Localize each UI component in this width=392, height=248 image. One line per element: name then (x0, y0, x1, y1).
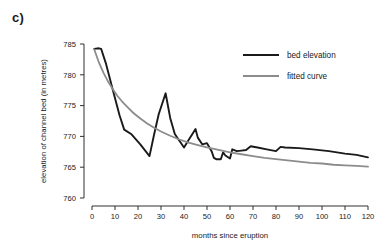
x-tick-label: 50 (203, 212, 211, 221)
x-tick-label: 100 (316, 212, 329, 221)
y-tick-label: 770 (63, 132, 76, 141)
line-chart: 7607657707757807850102030405060708090100… (0, 0, 392, 248)
x-tick-label: 60 (226, 212, 234, 221)
legend-group: bed elevationfitted curve (243, 51, 336, 81)
x-tick-label: 20 (134, 212, 142, 221)
series-line-2 (94, 50, 368, 167)
x-tick-label: 40 (180, 212, 188, 221)
y-tick-label: 765 (63, 163, 76, 172)
legend-label-2: fitted curve (287, 72, 327, 81)
legend-label-1: bed elevation (287, 51, 336, 60)
series-group (94, 48, 368, 166)
y-tick-label: 775 (63, 101, 76, 110)
figure-panel: c) 7607657707757807850102030405060708090… (0, 0, 392, 248)
axes-group: 7607657707757807850102030405060708090100… (63, 40, 374, 221)
x-tick-label: 30 (157, 212, 165, 221)
x-tick-label: 0 (90, 212, 94, 221)
x-tick-label: 70 (249, 212, 257, 221)
x-tick-label: 10 (111, 212, 119, 221)
x-axis-title: months since eruption (192, 231, 268, 240)
y-tick-label: 780 (63, 71, 76, 80)
series-line-1 (94, 48, 368, 159)
y-tick-label: 785 (63, 40, 76, 49)
x-tick-label: 90 (295, 212, 303, 221)
x-tick-label: 80 (272, 212, 280, 221)
x-tick-label: 110 (339, 212, 351, 221)
y-tick-label: 760 (63, 194, 76, 203)
y-axis-title: elevation of channel bed (in metres) (39, 59, 48, 183)
x-tick-label: 120 (362, 212, 375, 221)
